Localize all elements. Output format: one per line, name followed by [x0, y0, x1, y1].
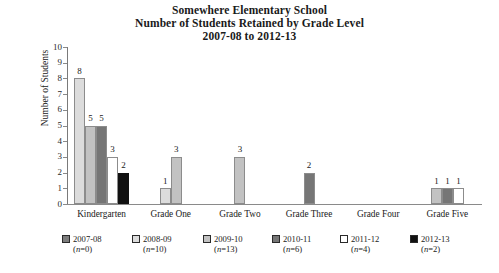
y-axis-tick	[63, 141, 67, 142]
y-axis-tick-label: 9	[58, 58, 63, 67]
bar-slot: 3	[234, 47, 245, 204]
bar: 5	[85, 126, 96, 205]
y-axis-title-holder: Number of Students	[14, 47, 34, 205]
bar-slot: 1	[442, 47, 453, 204]
legend-label: 2010-11	[283, 234, 311, 244]
legend-label: 2008-09	[143, 234, 172, 244]
bar-value-label: 1	[434, 177, 439, 186]
legend-label: 2009-10	[214, 234, 243, 244]
legend-label: 2007-08	[73, 234, 102, 244]
x-axis-category-labels: KindergartenGrade OneGrade TwoGrade Thre…	[67, 209, 482, 225]
chart-legend: 2007-08(n=0)2008-09(n=10)2009-10(n=13)20…	[0, 234, 499, 268]
legend-item[interactable]: 2009-10(n=13)	[203, 234, 243, 254]
legend-label: 2012-13	[421, 234, 450, 244]
bar: 3	[234, 157, 245, 204]
y-axis-tick	[63, 78, 67, 79]
chart-title: Somewhere Elementary School Number of St…	[0, 4, 499, 44]
bar: 2	[304, 173, 315, 204]
bar: 5	[96, 126, 107, 205]
y-axis-tick	[63, 94, 67, 95]
x-axis-label-kindergarten: Kindergarten	[67, 209, 136, 220]
bar-group: 2	[304, 47, 315, 204]
legend-swatch-icon	[272, 235, 280, 243]
bar-slot: 2	[304, 47, 315, 204]
y-axis-tick	[63, 110, 67, 111]
bar-group: 111	[431, 47, 464, 204]
y-axis-tick	[63, 63, 67, 64]
bar: 1	[442, 188, 453, 204]
y-axis-tick	[63, 47, 67, 48]
y-axis-tick	[63, 157, 67, 158]
bar-value-label: 3	[238, 145, 243, 154]
bar-value-label: 3	[110, 145, 115, 154]
bar-value-label: 2	[121, 161, 126, 170]
y-axis-tick-label: 1	[58, 184, 63, 193]
bar-value-label: 5	[88, 114, 93, 123]
chart-title-line-2: Number of Students Retained by Grade Lev…	[0, 17, 499, 30]
bar-chart: Somewhere Elementary School Number of St…	[0, 0, 499, 273]
bar-value-label: 1	[456, 177, 461, 186]
legend-sample-size: (n=6)	[283, 244, 311, 254]
y-axis-tick-label: 3	[58, 152, 63, 161]
legend-sample-size: (n=0)	[73, 244, 102, 254]
bar-slot: 2	[118, 47, 129, 204]
legend-sample-size: (n=4)	[351, 244, 379, 254]
bar: 8	[74, 78, 85, 204]
y-axis-tick-label: 2	[58, 168, 63, 177]
bar-slot: 3	[171, 47, 182, 204]
legend-swatch-icon	[132, 235, 140, 243]
bar: 1	[160, 188, 171, 204]
y-axis-tick-label: 10	[53, 43, 62, 52]
bar-value-label: 8	[77, 67, 82, 76]
bar-value-label: 3	[174, 145, 179, 154]
x-axis-label-grade-one: Grade One	[136, 209, 205, 220]
y-axis-tick	[63, 126, 67, 127]
bar-value-label: 2	[307, 161, 312, 170]
y-axis-tick-label: 4	[58, 137, 63, 146]
legend-swatch-icon	[410, 235, 418, 243]
y-axis-tick-label: 6	[58, 105, 63, 114]
bar-slot: 5	[85, 47, 96, 204]
x-axis-label-grade-two: Grade Two	[205, 209, 274, 220]
legend-sample-size: (n=13)	[214, 244, 243, 254]
legend-item[interactable]: 2010-11(n=6)	[272, 234, 311, 254]
chart-title-line-1: Somewhere Elementary School	[0, 4, 499, 17]
legend-sample-size: (n=10)	[143, 244, 172, 254]
legend-item[interactable]: 2007-08(n=0)	[62, 234, 102, 254]
y-axis-tick-labels: 012345678910	[38, 47, 62, 205]
y-axis-tick	[63, 204, 67, 205]
y-axis-tick-label: 8	[58, 74, 63, 83]
x-axis-label-grade-four: Grade Four	[344, 209, 413, 220]
bar-group: 13	[160, 47, 182, 204]
y-axis-tick-label: 0	[58, 200, 63, 209]
legend-item[interactable]: 2012-13(n=2)	[410, 234, 450, 254]
bar-slot: 5	[96, 47, 107, 204]
bar: 2	[118, 173, 129, 204]
bar-slot: 3	[107, 47, 118, 204]
x-axis-label-grade-five: Grade Five	[413, 209, 482, 220]
legend-swatch-icon	[340, 235, 348, 243]
bar-group: 85532	[74, 47, 129, 204]
bar: 3	[107, 157, 118, 204]
bar-slot: 1	[453, 47, 464, 204]
bar: 1	[431, 188, 442, 204]
bar-group: 3	[234, 47, 245, 204]
plot-area: 855321332111	[67, 47, 482, 205]
x-axis-line	[67, 204, 482, 205]
bar: 3	[171, 157, 182, 204]
y-axis-tick	[63, 173, 67, 174]
bar: 1	[453, 188, 464, 204]
y-axis-tick	[63, 188, 67, 189]
legend-item[interactable]: 2008-09(n=10)	[132, 234, 172, 254]
legend-sample-size: (n=2)	[421, 244, 450, 254]
legend-swatch-icon	[203, 235, 211, 243]
bar-slot: 1	[160, 47, 171, 204]
y-axis-line	[67, 47, 68, 205]
legend-swatch-icon	[62, 235, 70, 243]
bar-slot: 1	[431, 47, 442, 204]
legend-item[interactable]: 2011-12(n=4)	[340, 234, 379, 254]
bar-slot: 8	[74, 47, 85, 204]
bar-value-label: 1	[163, 177, 168, 186]
y-axis-tick-label: 7	[58, 90, 63, 99]
chart-title-line-3: 2007-08 to 2012-13	[0, 30, 499, 43]
